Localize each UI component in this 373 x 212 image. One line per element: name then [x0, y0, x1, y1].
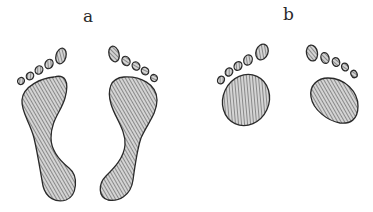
footprint-figure: a b	[0, 0, 373, 212]
toe-icon	[320, 52, 331, 65]
toe-icon	[350, 69, 359, 78]
big-toe-icon	[54, 47, 68, 65]
big-toe-icon	[254, 42, 271, 61]
panel-a-right-footprint	[100, 45, 159, 200]
toe-icon	[120, 55, 131, 67]
forefoot-ball-shape	[311, 78, 358, 123]
big-toe-icon	[305, 44, 319, 62]
toe-icon	[131, 60, 142, 71]
toe-icon	[233, 60, 244, 71]
toe-icon	[25, 71, 35, 82]
sole-shape	[100, 77, 157, 200]
panel-a-left-footprint	[16, 47, 75, 201]
toe-icon	[331, 57, 341, 68]
toe-icon	[140, 66, 150, 77]
big-toe-icon	[107, 45, 121, 63]
toe-icon	[16, 76, 26, 86]
toe-icon	[224, 67, 234, 78]
panel-b-left-footprint	[214, 42, 278, 133]
toe-icon	[43, 58, 54, 70]
footprints-illustration	[0, 0, 373, 212]
toe-icon	[216, 75, 226, 85]
toe-icon	[34, 64, 45, 75]
sole-shape	[22, 76, 76, 201]
toe-icon	[149, 73, 159, 83]
panel-b-right-footprint	[305, 44, 358, 123]
toe-icon	[242, 54, 253, 67]
toe-icon	[340, 62, 349, 72]
